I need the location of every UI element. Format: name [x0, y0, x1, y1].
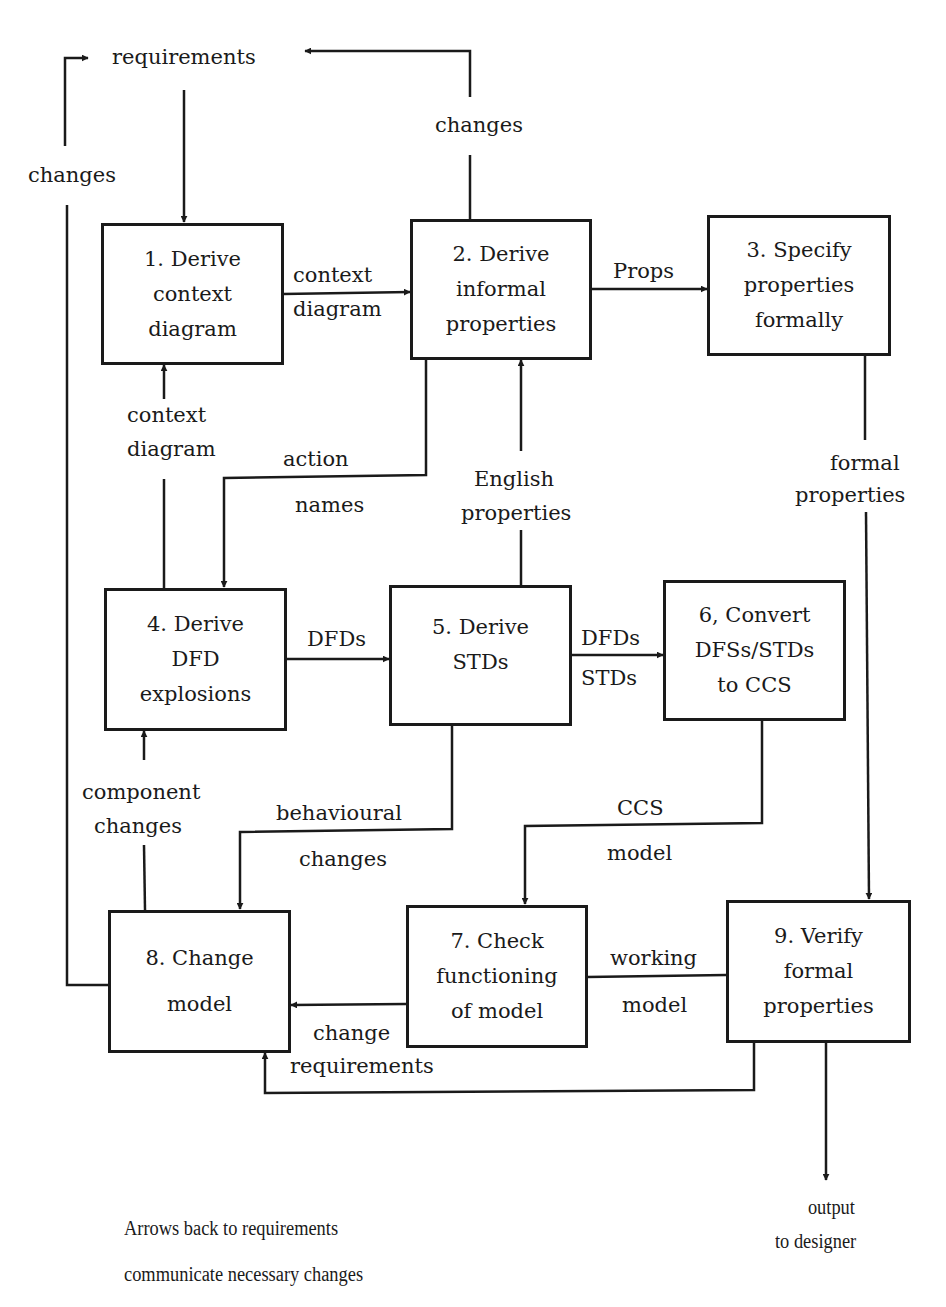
edge-label-dfds-2: DFDs [581, 625, 640, 651]
edge-label-changes-left: changes [28, 162, 116, 188]
process-box-2-derive-informal-properties: 2. Derive informal properties [410, 219, 592, 360]
process-box-9-verify-formal-properties: 9. Verify formal properties [726, 900, 911, 1043]
edge-label-behavioural-changes: changes [299, 846, 387, 872]
box-2-line-2: informal [456, 272, 546, 307]
box-3-line-3: formally [755, 303, 843, 338]
edge-label-ccs-model: model [607, 840, 672, 866]
box-7-line-3: of model [451, 994, 543, 1029]
footnote-line-2: communicate necessary changes [124, 1263, 363, 1286]
arrow-box1-to-box2 [283, 292, 410, 294]
process-box-7-check-functioning: 7. Check functioning of model [406, 905, 588, 1048]
process-box-1-derive-context-diagram: 1. Derive context diagram [101, 223, 284, 365]
edge-label-formal-properties: properties [795, 482, 905, 508]
box-8-line-2: model [167, 981, 232, 1027]
process-box-3-specify-properties-formally: 3. Specify properties formally [707, 215, 891, 356]
box-3-line-2: properties [744, 268, 854, 303]
box-6-line-3: to CCS [717, 668, 791, 703]
box-8-line-1: 8. Change [145, 935, 253, 981]
edge-label-properties: properties [461, 500, 571, 526]
box-5-line-2: STDs [452, 645, 508, 680]
edge-label-context: context [293, 262, 372, 288]
edge-label-stds: STDs [581, 665, 637, 691]
process-box-4-derive-dfd-explosions: 4. Derive DFD explosions [104, 588, 287, 731]
edge-label-action: action [283, 446, 349, 472]
box-7-line-2: functioning [436, 959, 558, 994]
edge-label-component: component [82, 779, 200, 805]
output-label-line-2: to designer [775, 1230, 856, 1253]
arrow-box7-to-box8 [291, 1004, 406, 1005]
edge-label-change: change [313, 1020, 390, 1046]
box-9-line-2: formal [784, 954, 854, 989]
edge-label-component-changes: changes [94, 813, 182, 839]
box-2-line-3: properties [446, 307, 556, 342]
edge-label-behavioural: behavioural [276, 800, 402, 826]
edge-label-english: English [474, 466, 554, 492]
box-4-line-3: explosions [140, 677, 252, 712]
edge-label-working: working [610, 945, 697, 971]
box-6-line-1: 6, Convert [699, 598, 811, 633]
edge-label-diagram: diagram [293, 296, 382, 322]
box-7-line-1: 7. Check [450, 924, 543, 959]
box-1-line-2: context [153, 277, 232, 312]
line-box7-box9 [587, 975, 726, 977]
edge-label-props: Props [613, 258, 674, 284]
box-5-line-1: 5. Derive [432, 610, 529, 645]
process-box-5-derive-stds: 5. Derive STDs [389, 585, 572, 726]
arrow-box8-to-box4 [144, 845, 145, 910]
process-box-6-convert-to-ccs: 6, Convert DFSs/STDs to CCS [663, 580, 846, 721]
box-9-line-1: 9. Verify [774, 919, 863, 954]
edge-label-ccs: CCS [617, 795, 664, 821]
box-1-line-3: diagram [148, 312, 237, 347]
box-6-line-2: DFSs/STDs [695, 633, 815, 668]
footnote-line-1: Arrows back to requirements [124, 1217, 338, 1240]
arrow-box2-to-box4 [224, 359, 426, 587]
edge-label-context-2: context [127, 402, 206, 428]
output-label-line-1: output [790, 1196, 873, 1219]
edge-label-diagram-2: diagram [127, 436, 216, 462]
edge-label-changes-top: changes [435, 112, 523, 138]
box-9-line-3: properties [763, 989, 873, 1024]
edge-label-dfds: DFDs [307, 626, 366, 652]
box-2-line-1: 2. Derive [452, 237, 549, 272]
edge-label-formal: formal [830, 450, 900, 476]
edge-label-names: names [295, 492, 364, 518]
box-4-line-2: DFD [171, 642, 219, 677]
edge-label-working-model: model [622, 992, 687, 1018]
requirements-label: requirements [112, 44, 256, 70]
edge-label-change-requirements: requirements [290, 1053, 434, 1079]
box-3-line-1: 3. Specify [746, 233, 851, 268]
process-box-8-change-model: 8. Change model [108, 910, 291, 1053]
box-4-line-1: 4. Derive [147, 607, 244, 642]
box-1-line-1: 1. Derive [144, 242, 241, 277]
